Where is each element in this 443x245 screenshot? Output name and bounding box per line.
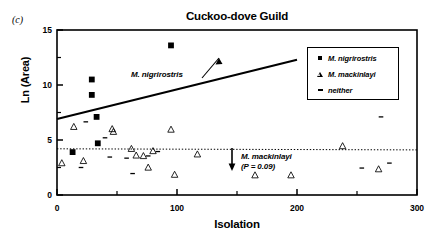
- legend-label-neither: neither: [328, 86, 352, 95]
- y-tick-label: 15: [30, 25, 52, 35]
- mackinlayi-trend-line: [57, 149, 417, 150]
- legend-item-neither: neither: [308, 82, 400, 98]
- data-point-mackinlayi: [140, 153, 146, 159]
- y-tick-label: 5: [30, 135, 52, 145]
- x-tick-label: 300: [402, 203, 432, 213]
- data-point-mackinlayi: [194, 151, 200, 157]
- legend-item-mackinlayi: M. mackinlayi: [308, 66, 400, 82]
- data-point-mackinlayi: [375, 166, 381, 172]
- data-point-mackinlayi: [288, 172, 294, 178]
- small-dash-icon: [312, 89, 328, 90]
- legend: M. nigrirostris M. mackinlayi neither: [307, 47, 399, 100]
- legend-label-mackinlayi: M. mackinlayi: [328, 70, 375, 79]
- data-point-mackinlayi: [252, 172, 258, 178]
- annotation-mackinlayi-pvalue: (P = 0.09): [241, 162, 275, 171]
- data-point-mackinlayi: [145, 164, 151, 170]
- data-point-nigrirostris: [95, 140, 101, 146]
- legend-label-nigrirostris: M. nigrirostris: [328, 54, 377, 63]
- data-point-mackinlayi: [150, 148, 156, 154]
- data-point-mackinlayi: [339, 143, 345, 149]
- filled-square-icon: [312, 56, 328, 60]
- y-tick-label: 0: [30, 190, 52, 200]
- data-point-nigrirostris: [94, 114, 100, 120]
- figure-panel-c: (c) Cuckoo-dove Guild Ln (Area) Isolatio…: [0, 0, 443, 245]
- data-point-nigrirostris: [89, 77, 95, 83]
- data-point-mackinlayi: [59, 160, 65, 166]
- x-tick-label: 200: [282, 203, 312, 213]
- legend-item-nigrirostris: M. nigrirostris: [308, 50, 400, 66]
- data-point-mackinlayi: [171, 171, 177, 177]
- data-point-mackinlayi: [71, 123, 77, 129]
- data-point-mackinlayi: [128, 145, 134, 151]
- annotation-mackinlayi: M. mackinlayi: [241, 152, 292, 161]
- x-tick-label: 0: [42, 203, 72, 213]
- open-triangle-icon: [312, 72, 328, 77]
- annotation-arrows: [202, 58, 235, 171]
- y-tick-label: 10: [30, 80, 52, 90]
- data-point-mackinlayi: [168, 126, 174, 132]
- data-point-mackinlayi: [80, 158, 86, 164]
- data-point-nigrirostris: [168, 43, 174, 49]
- data-point-nigrirostris: [70, 149, 76, 155]
- annotation-nigrirostris: M. nigrirostris: [131, 70, 183, 79]
- x-tick-label: 100: [162, 203, 192, 213]
- data-point-mackinlayi: [133, 152, 139, 158]
- nigrirostris-trend-line: [57, 60, 297, 119]
- data-point-nigrirostris: [89, 92, 95, 98]
